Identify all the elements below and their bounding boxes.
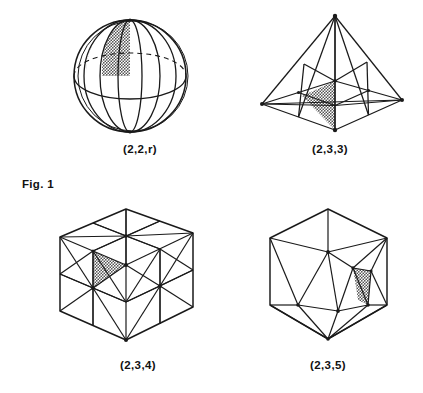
cube-top-median-e: [126, 233, 193, 236]
cube-left-connector-1: [60, 251, 93, 274]
cube-right-connector-1: [160, 249, 193, 270]
caption-tetrahedron: (2,3,3): [250, 143, 410, 155]
figure-tetrahedron: [252, 8, 412, 148]
figure-icosahedron: [250, 205, 410, 360]
tetra-median-front-right: [335, 16, 369, 115]
icosa-bottom-inner-left: [298, 305, 328, 339]
cube-left-median-bl: [60, 288, 93, 311]
icosa-bottom-band: [298, 305, 338, 311]
sphere-equator-front: [74, 76, 186, 99]
figure-1-container: (2,2,r): [0, 0, 423, 393]
sphere-north-pole: [128, 18, 131, 21]
figure-label: Fig. 1: [22, 178, 54, 190]
caption-cube: (2,3,4): [58, 359, 218, 371]
icosa-top-left-to-hub: [270, 238, 328, 252]
figure-cube: [48, 205, 213, 360]
sphere-south-pole: [128, 130, 131, 133]
tetra-face-line-right-lower: [367, 62, 369, 115]
tetra-edge-apex-right: [335, 16, 402, 100]
icosa-top-right-to-hub: [328, 238, 387, 252]
figure-sphere: [58, 8, 226, 148]
icosa-hub-to-left-lower: [298, 252, 328, 305]
icosa-bottom-left-edge: [270, 305, 328, 339]
cube-right-median-br: [160, 286, 193, 307]
icosa-right-node-down: [371, 271, 387, 305]
icosa-right-node-edge: [371, 238, 387, 271]
tetra-face-line-left-upper: [304, 64, 335, 81]
caption-sphere: (2,2,r): [60, 143, 220, 155]
icosa-hub-to-right-node: [328, 252, 353, 268]
cube-top-median-w: [60, 236, 126, 237]
icosa-left-edge-inner: [270, 238, 298, 305]
cube-shaded-triangle: [93, 251, 126, 289]
caption-icosahedron: (2,3,5): [248, 359, 408, 371]
icosa-hub-to-front: [328, 252, 338, 311]
